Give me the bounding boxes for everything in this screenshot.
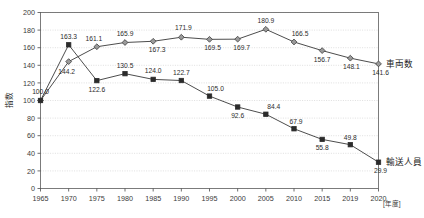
data-point-marker [235, 36, 241, 42]
data-point-label: 84.4 [267, 103, 280, 110]
legend-label-1: 車両数 [386, 58, 413, 69]
legend-label-2: 輸送人員 [386, 156, 422, 167]
y-tick-label: 100 [23, 96, 35, 105]
data-point-marker [179, 78, 183, 82]
data-point-label: 29.9 [374, 167, 387, 174]
x-tick-label: 2015 [314, 194, 330, 203]
data-point-label: 156.7 [314, 56, 331, 63]
x-tick-label: 1970 [61, 194, 77, 203]
data-point-marker [292, 127, 296, 131]
data-point-label: 167.3 [149, 46, 166, 53]
data-point-label: 166.5 [292, 30, 309, 37]
y-tick-label: 180 [23, 26, 35, 35]
y-tick-label: 160 [23, 43, 35, 52]
data-point-marker [94, 44, 100, 50]
x-tick-label: 1990 [173, 194, 189, 203]
data-point-label: 180.9 [257, 17, 274, 24]
y-tick-label: 140 [23, 61, 35, 70]
x-tick-label: 2019 [342, 194, 358, 203]
data-point-label: 67.9 [289, 118, 302, 125]
data-point-marker [151, 77, 155, 81]
data-point-label: 169.5 [204, 44, 221, 51]
x-tick-label: 1985 [145, 194, 161, 203]
y-tick-label: 0 [31, 184, 35, 193]
data-point-label: 92.6 [231, 112, 244, 119]
data-point-label: 124.0 [145, 67, 162, 74]
data-point-marker [348, 142, 352, 146]
y-tick-label: 200 [23, 8, 35, 17]
data-point-label: 163.3 [60, 33, 77, 40]
data-point-marker [376, 160, 380, 164]
data-point-marker [291, 39, 297, 45]
data-point-marker [150, 38, 156, 44]
data-point-marker [320, 137, 324, 141]
data-point-marker [347, 55, 353, 61]
data-point-marker [264, 112, 268, 116]
y-tick-label: 60 [27, 131, 35, 140]
legend: 車両数輸送人員 [386, 58, 422, 167]
y-tick-label: 40 [27, 149, 35, 158]
data-point-label: 141.6 [372, 69, 389, 76]
data-point-marker [376, 61, 382, 67]
y-tick-label: 20 [27, 167, 35, 176]
data-point-marker [95, 78, 99, 82]
x-axis-ticks: 1965197019751980198519901995200020052010… [33, 189, 387, 203]
x-axis-unit-label: [年度] [383, 199, 401, 208]
data-point-marker [123, 71, 127, 75]
data-point-marker [66, 43, 70, 47]
data-point-label: 55.8 [316, 144, 329, 151]
data-point-marker [178, 34, 184, 40]
x-tick-label: 1980 [117, 194, 133, 203]
data-point-marker [235, 105, 239, 109]
data-point-label: 122.7 [173, 69, 190, 76]
y-axis-title: 指数 [4, 92, 14, 108]
data-point-marker [263, 26, 269, 32]
x-tick-label: 1975 [89, 194, 105, 203]
data-point-label: 122.6 [88, 86, 105, 93]
data-point-label: 148.1 [343, 63, 360, 70]
data-point-label: 161.1 [85, 35, 102, 42]
data-point-label: 165.9 [117, 30, 134, 37]
y-tick-label: 120 [23, 79, 35, 88]
data-point-label: 171.9 [175, 24, 192, 31]
data-point-marker [207, 94, 211, 98]
x-tick-label: 1965 [33, 194, 49, 203]
x-tick-label: 2000 [230, 194, 246, 203]
data-point-label: 105.0 [207, 85, 224, 92]
chart-canvas: 020406080100120140160180200 196519701975… [0, 0, 424, 218]
data-point-marker [319, 48, 325, 54]
data-point-marker [38, 98, 42, 102]
data-point-marker [207, 36, 213, 42]
x-tick-label: 2010 [286, 194, 302, 203]
data-point-label: 144.2 [58, 68, 75, 75]
data-point-label: 130.5 [117, 62, 134, 69]
data-point-marker [122, 40, 128, 46]
data-point-label: 100.0 [32, 88, 49, 95]
line-chart: 020406080100120140160180200 196519701975… [0, 0, 424, 218]
x-tick-label: 2005 [258, 194, 274, 203]
data-point-label: 49.8 [344, 134, 357, 141]
data-point-label: 169.7 [233, 44, 250, 51]
x-tick-label: 1995 [202, 194, 218, 203]
y-tick-label: 80 [27, 114, 35, 123]
